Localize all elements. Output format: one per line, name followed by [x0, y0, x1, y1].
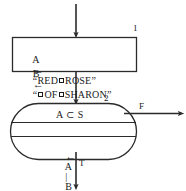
assignment-b-part3: SHARON — [65, 89, 107, 100]
loop-body-statement: ← A | B — [54, 141, 77, 191]
assignment-b-part2: OF — [44, 89, 57, 100]
branch-label-true: T — [79, 159, 85, 168]
loop-condition-text: A ⊂ S — [56, 110, 84, 120]
branch-label-false: F — [139, 102, 144, 111]
step-tag-1: 1 — [133, 24, 138, 33]
assignment-statement-b: B ← “OFSHARON” — [22, 59, 112, 110]
assignment-b-open-quote: “ — [33, 89, 38, 100]
blank-space-box-icon — [38, 92, 43, 97]
blank-space-box-icon — [59, 92, 64, 97]
flowchart-diagram: A ← “REDROSE” B ← “OFSHARON” 1 2 A ⊂ S ←… — [0, 0, 186, 191]
loop-body-right-operand: B — [65, 181, 72, 191]
step-tag-2: 2 — [104, 94, 109, 103]
